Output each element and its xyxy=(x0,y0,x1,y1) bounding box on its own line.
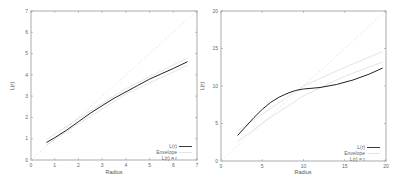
x-tick-label: 5 xyxy=(148,162,151,168)
y-tick-label: 5 xyxy=(25,50,28,56)
x-tick-label: 2 xyxy=(77,162,80,168)
legend-label-reference: L(r) = r xyxy=(350,156,365,162)
legend-label-reference: L(r) = r xyxy=(162,155,177,161)
y-tick-label: 2 xyxy=(25,114,28,120)
right-envelope-lower xyxy=(238,62,383,142)
y-tick-label: 0 xyxy=(25,157,28,163)
y-tick-label: 20 xyxy=(212,8,218,14)
y-tick-label: 3 xyxy=(25,93,28,99)
y-tick-label: 15 xyxy=(212,45,218,51)
right-x-axis-label: Radius xyxy=(294,169,311,175)
x-tick-label: 0 xyxy=(30,162,33,168)
y-tick-label: 4 xyxy=(25,72,28,78)
y-tick-label: 0 xyxy=(215,158,218,164)
right-envelope-upper xyxy=(238,52,383,132)
x-tick-label: 7 xyxy=(196,162,199,168)
x-tick-label: 6 xyxy=(172,162,175,168)
x-tick-label: 5 xyxy=(261,163,264,169)
y-tick-label: 1 xyxy=(25,135,28,141)
x-tick-label: 0 xyxy=(220,163,223,169)
right-chart: 0510152005101520 Radius L(r) L(r) Envelo… xyxy=(199,8,389,175)
left-y-axis-label: L(r) xyxy=(9,82,15,91)
x-tick-label: 4 xyxy=(124,162,127,168)
left-legend: L(r) Envelope L(r) = r xyxy=(156,143,192,161)
y-tick-label: 5 xyxy=(215,120,218,126)
figure: 0123456701234567 Radius L(r) L(r) Envelo… xyxy=(0,0,402,185)
left-envelope-lower xyxy=(46,65,187,145)
right-y-axis-label: L(r) xyxy=(199,82,205,91)
x-tick-label: 20 xyxy=(383,163,389,169)
left-lr-curve xyxy=(46,62,187,143)
left-reference-line xyxy=(31,11,197,160)
y-tick-label: 10 xyxy=(212,83,218,89)
x-tick-label: 3 xyxy=(101,162,104,168)
y-tick-label: 7 xyxy=(25,8,28,14)
left-x-axis-label: Radius xyxy=(105,169,122,175)
y-tick-label: 6 xyxy=(25,29,28,35)
left-chart: 0123456701234567 Radius L(r) L(r) Envelo… xyxy=(9,8,199,175)
x-tick-label: 15 xyxy=(342,163,348,169)
right-legend: L(r) Envelope L(r) = r xyxy=(344,144,380,162)
x-tick-label: 1 xyxy=(53,162,56,168)
